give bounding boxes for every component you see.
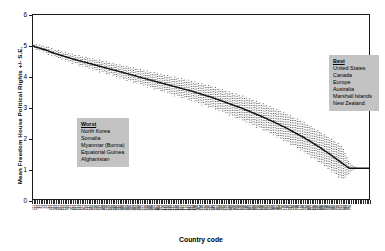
- annotation-best-item: Europe: [333, 79, 375, 86]
- x-axis-tick-label: 990: [349, 205, 352, 210]
- annotation-worst-item: Somalia: [81, 135, 125, 142]
- figure: Mean Freedom House Political Rights +/- …: [0, 0, 385, 251]
- y-axis-tick-label: 1: [23, 167, 27, 173]
- annotation-best-item: Marshall Islands: [333, 93, 375, 100]
- y-axis-tick-label: 3: [23, 105, 27, 111]
- annotation-best-item: New Zealand: [333, 100, 375, 107]
- y-axis-tick: [29, 46, 33, 47]
- y-axis-tick: [29, 170, 33, 171]
- annotation-worst-header: Worst: [81, 121, 125, 128]
- y-axis-title: Mean Freedom House Political Rights +/- …: [16, 21, 23, 211]
- annotation-best: Best United States Canada Europe Austral…: [329, 55, 379, 111]
- plot-area: Worst North Korea Somalia Myanmar (Burma…: [32, 14, 370, 200]
- y-axis-tick-label: 6: [23, 12, 27, 18]
- x-axis-tick: [370, 200, 371, 204]
- y-axis-tick-label: 4: [23, 74, 27, 80]
- y-axis-tick-label: 5: [23, 43, 27, 49]
- y-axis-tick: [29, 15, 33, 16]
- y-axis-tick: [29, 77, 33, 78]
- y-axis-tick-label: 2: [23, 136, 27, 142]
- annotation-best-item: Canada: [333, 72, 375, 79]
- y-axis-tick-label: 0: [23, 198, 27, 204]
- x-axis-title: Country code: [32, 236, 370, 243]
- y-axis-tick: [29, 139, 33, 140]
- plot-svg: [33, 15, 369, 199]
- annotation-worst-item: Myanmar (Burma): [81, 142, 125, 149]
- annotation-best-item: Australia: [333, 86, 375, 93]
- annotation-worst: Worst North Korea Somalia Myanmar (Burma…: [77, 118, 129, 167]
- annotation-worst-item: North Korea: [81, 128, 125, 135]
- annotation-worst-item: Afghanistan: [81, 156, 125, 163]
- annotation-worst-item: Equatorial Guinea: [81, 149, 125, 156]
- x-axis-tick-labels: 2112313117411217151118112211113113314118…: [32, 205, 370, 233]
- annotation-best-header: Best: [333, 58, 375, 65]
- y-axis-tick: [29, 108, 33, 109]
- annotation-best-item: United States: [333, 65, 375, 72]
